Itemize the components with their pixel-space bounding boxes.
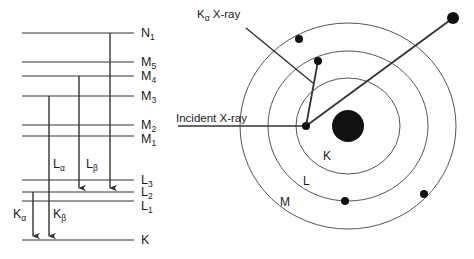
level-label-L1: L1 — [141, 199, 153, 215]
shell-label-M: M — [280, 195, 290, 209]
transition-label-K-beta: Kβ — [53, 207, 66, 223]
ejected-electron-path — [306, 18, 453, 126]
transition-labels: Kα Kβ Lα Lβ — [13, 157, 98, 223]
level-label-K: K — [141, 233, 150, 247]
electron-k-vacancy — [302, 122, 310, 130]
figure-root: N1 M5 M4 M3 M2 M1 L3 — [0, 0, 474, 259]
level-label-M3: M3 — [141, 89, 156, 105]
level-label-N1: N1 — [141, 26, 155, 42]
kalpha-xray-annotation: Kα X-ray — [197, 8, 241, 23]
electron-m-upper-left — [295, 35, 303, 43]
shell-labels: K L M — [280, 149, 331, 209]
shell-label-K: K — [323, 149, 331, 163]
shell-label-L: L — [303, 174, 310, 188]
xray-diagram-svg: N1 M5 M4 M3 M2 M1 L3 — [0, 0, 474, 259]
annotations: Kα X-ray Incident X-ray — [176, 8, 247, 124]
kalpha-leader-line — [246, 28, 313, 83]
electron-transition-path — [306, 61, 318, 126]
transition-label-L-alpha: Lα — [53, 157, 65, 173]
electron-l-lower — [341, 197, 349, 205]
energy-level-lines — [22, 33, 134, 240]
atomic-shell-diagram: K L M Kα X-ray Incident X-ray — [176, 8, 459, 229]
electrons — [295, 12, 459, 205]
level-label-M4: M4 — [141, 69, 156, 85]
nucleus — [332, 110, 364, 142]
electron-ejected — [447, 12, 459, 24]
electron-l-upper — [314, 57, 322, 65]
incident-xray-annotation: Incident X-ray — [176, 112, 247, 124]
transition-label-L-beta: Lβ — [86, 157, 98, 173]
transition-arrows — [33, 33, 110, 236]
energy-level-labels: N1 M5 M4 M3 M2 M1 L3 — [141, 26, 156, 247]
level-label-M1: M1 — [141, 132, 156, 148]
electron-m-lower-right — [420, 190, 428, 198]
transition-label-K-alpha: Kα — [13, 207, 26, 223]
energy-level-diagram: N1 M5 M4 M3 M2 M1 L3 — [13, 26, 156, 247]
